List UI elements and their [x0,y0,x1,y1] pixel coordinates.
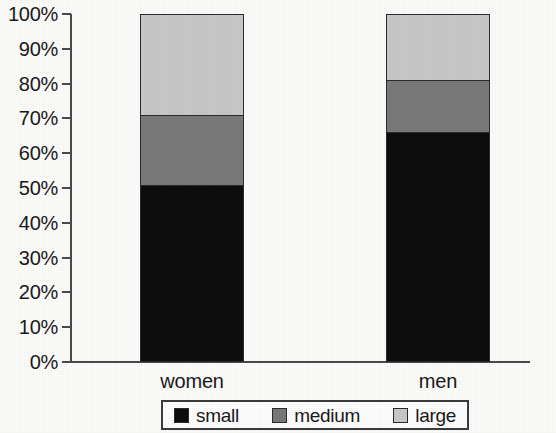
y-tick-label: 100% [8,4,58,24]
y-tick-label: 30% [19,248,58,268]
bar-segment-men-large [386,14,490,80]
y-tick-mark [62,13,71,15]
legend-item-large: large [393,406,456,425]
y-tick-mark [62,361,71,363]
y-tick-label: 60% [19,143,58,163]
bar-segment-women-small [140,185,244,362]
y-tick-label: 50% [19,178,58,198]
y-tick-label: 0% [30,352,58,372]
y-tick-mark [62,257,71,259]
legend-label-large: large [415,406,456,425]
legend-swatch-large [393,408,408,423]
y-tick-mark [62,48,71,50]
bar-segment-men-medium [386,80,490,132]
y-tick-mark [62,222,71,224]
y-tick-mark [62,117,71,119]
chart-legend: small medium large [161,400,469,430]
y-tick-mark [62,152,71,154]
stacked-bar-chart: 100%90%80%70%60%50%40%30%20%10%0% womenm… [0,0,556,433]
bar-segment-women-large [140,14,244,115]
bar-women [140,14,244,362]
legend-swatch-small [174,408,189,423]
y-tick-label: 40% [19,213,58,233]
x-category-label-women: women [140,370,244,392]
y-tick-mark [62,291,71,293]
x-category-label-men: men [386,370,490,392]
y-tick-label: 20% [19,282,58,302]
bar-segment-men-small [386,132,490,362]
legend-label-medium: medium [294,406,360,425]
y-tick-mark [62,326,71,328]
y-tick-label: 10% [19,317,58,337]
plot-area: 100%90%80%70%60%50%40%30%20%10%0% womenm… [0,0,556,400]
legend-swatch-medium [272,408,287,423]
legend-item-small: small [174,406,239,425]
bar-men [386,14,490,362]
y-tick-mark [62,83,71,85]
y-tick-label: 80% [19,74,58,94]
y-tick-mark [62,187,71,189]
y-tick-label: 70% [19,108,58,128]
bar-segment-women-medium [140,115,244,185]
legend-label-small: small [196,406,239,425]
legend-item-medium: medium [272,406,360,425]
y-tick-label: 90% [19,39,58,59]
